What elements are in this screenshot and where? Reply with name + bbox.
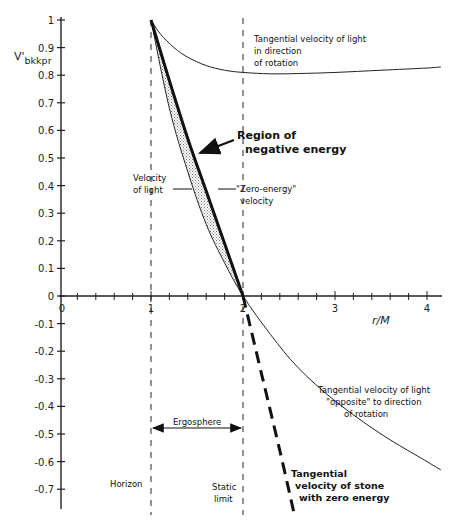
- kerr-ergosphere-diagram: 10.90.80.70.60.50.40.30.20.10-0.1-0.2-0.…: [0, 0, 450, 521]
- negative-energy-arrow: [200, 140, 234, 153]
- svg-text:Tangential: Tangential: [291, 468, 347, 479]
- label-stone-zero-energy: Tangential velocity of stone with zero e…: [291, 468, 390, 503]
- y-tick-label: -0.3: [34, 374, 54, 385]
- y-tick-label: 0.1: [38, 263, 54, 274]
- svg-text:Tangential velocity of light: Tangential velocity of light: [253, 34, 367, 44]
- y-tick-label: -0.2: [34, 346, 54, 357]
- stone-zero-energy-dashed-curve: [243, 296, 294, 511]
- x-axis: 01234: [59, 291, 442, 314]
- svg-text:Region of: Region of: [237, 129, 296, 142]
- y-tick-label: 0: [48, 291, 54, 302]
- y-axis: 10.90.80.70.60.50.40.30.20.10-0.1-0.2-0.…: [34, 15, 65, 509]
- svg-text:of rotation: of rotation: [254, 58, 298, 68]
- svg-text:Velocity: Velocity: [133, 173, 166, 183]
- svg-text:limit: limit: [214, 494, 233, 504]
- svg-text:Static: Static: [212, 482, 237, 492]
- y-tick-label: 0.5: [38, 153, 54, 164]
- label-static-limit: Static limit: [212, 482, 237, 504]
- svg-text:negative energy: negative energy: [245, 143, 346, 156]
- svg-text:in direction: in direction: [254, 46, 302, 56]
- svg-text:of light: of light: [133, 185, 163, 195]
- y-tick-label: -0.1: [34, 319, 54, 330]
- x-tick-label: 3: [332, 303, 338, 314]
- y-tick-label: 0.2: [38, 236, 54, 247]
- svg-text:"opposite" to direction: "opposite" to direction: [326, 397, 422, 407]
- label-light-corotating: Tangential velocity of light in directio…: [253, 34, 367, 68]
- y-tick-label: 0.9: [38, 43, 54, 54]
- y-tick-label: -0.7: [34, 484, 54, 495]
- y-tick-label: 0.6: [38, 125, 54, 136]
- label-ergosphere: Ergosphere: [173, 417, 221, 427]
- x-tick-label: 0: [59, 303, 65, 314]
- y-tick-label: 0.3: [38, 208, 54, 219]
- label-light-opposite: Tangential velocity of light "opposite" …: [317, 385, 431, 419]
- label-velocity-of-light: Velocity of light: [133, 173, 166, 195]
- y-tick-label: -0.6: [34, 457, 54, 468]
- x-tick-label: 4: [424, 303, 430, 314]
- svg-text:velocity: velocity: [240, 196, 273, 206]
- y-tick-label: 0.4: [38, 181, 54, 192]
- svg-text:with zero energy: with zero energy: [299, 492, 390, 503]
- label-horizon: Horizon: [110, 479, 143, 489]
- svg-text:"Zero-energy": "Zero-energy": [236, 184, 296, 194]
- y-tick-label: -0.5: [34, 429, 54, 440]
- svg-text:velocity of stone: velocity of stone: [295, 480, 384, 491]
- label-zero-energy-velocity: "Zero-energy" velocity: [236, 184, 296, 206]
- y-tick-label: 0.8: [38, 70, 54, 81]
- svg-text:Tangential velocity of light: Tangential velocity of light: [317, 385, 431, 395]
- label-negative-energy: Region of negative energy: [237, 129, 346, 156]
- x-axis-label: r/M: [372, 314, 390, 327]
- y-tick-label: -0.4: [34, 401, 54, 412]
- y-tick-label: 0.7: [38, 98, 54, 109]
- svg-text:of rotation: of rotation: [344, 409, 388, 419]
- y-tick-label: 1: [48, 15, 54, 26]
